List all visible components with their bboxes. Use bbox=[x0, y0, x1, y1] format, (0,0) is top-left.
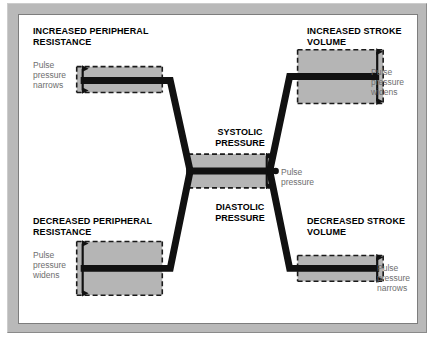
heading-increased-stroke-volume: INCREASED STROKE VOLUME bbox=[307, 26, 402, 48]
waveform-branches bbox=[81, 77, 380, 269]
note-decreased-stroke-volume: Pulse pressure narrows bbox=[377, 263, 410, 293]
note-central-pulse-pressure: Pulse pressure bbox=[281, 167, 314, 187]
diagram-canvas bbox=[19, 15, 417, 323]
note-increased-peripheral-resistance: Pulse pressure narrows bbox=[33, 60, 66, 90]
pulse-pressure-connector bbox=[273, 168, 279, 174]
heading-decreased-peripheral-resistance: DECREASED PERIPHERAL RESISTANCE bbox=[33, 216, 152, 238]
heading-decreased-stroke-volume: DECREASED STROKE VOLUME bbox=[307, 216, 405, 238]
note-increased-stroke-volume: Pulse pressure widens bbox=[371, 67, 404, 97]
heading-diastolic-pressure: DIASTOLIC PRESSURE bbox=[195, 202, 285, 224]
heading-increased-peripheral-resistance: INCREASED PERIPHERAL RESISTANCE bbox=[33, 26, 149, 48]
figure-panel: INCREASED PERIPHERAL RESISTANCE INCREASE… bbox=[18, 14, 418, 324]
note-decreased-peripheral-resistance: Pulse pressure widens bbox=[33, 250, 66, 280]
heading-systolic-pressure: SYSTOLIC PRESSURE bbox=[195, 127, 285, 149]
figure-frame: INCREASED PERIPHERAL RESISTANCE INCREASE… bbox=[7, 3, 427, 333]
